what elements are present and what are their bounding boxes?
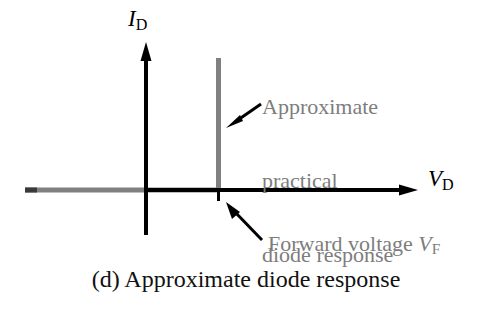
- forward-voltage-annotation-text: Forward voltage: [268, 231, 418, 256]
- diode-response-figure: ID VD Approximate practical diode respon…: [0, 0, 492, 310]
- forward-voltage-annotation-variable: V: [418, 231, 431, 256]
- y-axis-label: ID: [128, 6, 148, 34]
- figure-graphics: [0, 0, 492, 310]
- response-leader-arrow: [226, 104, 261, 128]
- y-axis-label-variable: I: [128, 6, 136, 31]
- y-axis-arrowhead: [141, 42, 152, 61]
- response-annotation-line-2: practical: [262, 169, 393, 194]
- response-annotation-line-1: Approximate: [262, 95, 393, 120]
- x-axis-label: VD: [428, 166, 454, 194]
- x-axis-label-variable: V: [428, 166, 442, 191]
- diode-response-curve: [25, 58, 219, 190]
- forward-voltage-leader-arrow: [226, 202, 262, 240]
- forward-voltage-annotation: Forward voltage VF: [268, 232, 440, 258]
- y-axis-label-subscript: D: [136, 16, 148, 33]
- forward-voltage-annotation-subscript: F: [432, 240, 441, 257]
- figure-caption: (d) Approximate diode response: [0, 266, 492, 293]
- x-axis-label-subscript: D: [442, 176, 454, 193]
- y-axis: [141, 42, 152, 235]
- x-axis-arrowhead: [399, 185, 418, 196]
